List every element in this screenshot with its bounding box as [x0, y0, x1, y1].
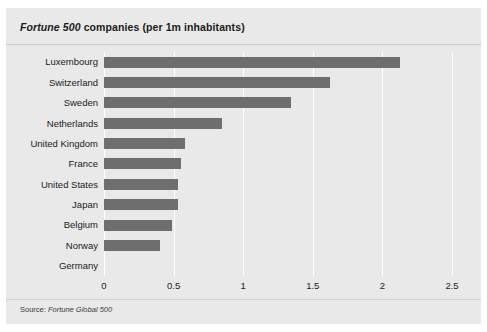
bar-row: United States — [104, 174, 452, 194]
bar — [104, 240, 160, 251]
bar-row: France — [104, 154, 452, 174]
category-label: Sweden — [64, 98, 98, 108]
bar — [104, 138, 185, 149]
bar — [104, 220, 172, 231]
category-label: Japan — [72, 200, 98, 210]
category-label: Norway — [66, 241, 98, 251]
bar-row: Netherlands — [104, 113, 452, 133]
source-divider — [6, 299, 481, 300]
bar-row: Japan — [104, 195, 452, 215]
category-label: France — [68, 159, 98, 169]
bar-row: Switzerland — [104, 72, 452, 92]
source-name: Fortune Global 500 — [48, 305, 112, 314]
category-label: Luxembourg — [45, 57, 98, 67]
bar — [104, 57, 400, 68]
bar-row: Germany — [104, 256, 452, 276]
x-tick-label: 2.5 — [445, 280, 458, 291]
category-label: Switzerland — [49, 78, 98, 88]
x-tick-label: 2 — [380, 280, 385, 291]
bar — [104, 199, 178, 210]
source-note: Source: Fortune Global 500 — [20, 305, 112, 314]
bar — [104, 179, 178, 190]
category-label: United States — [41, 180, 98, 190]
x-tick-label: 1.5 — [306, 280, 319, 291]
category-label: Germany — [59, 261, 98, 271]
bar-row: Norway — [104, 235, 452, 255]
bar — [104, 158, 181, 169]
bar — [104, 97, 291, 108]
bar — [104, 77, 330, 88]
bar-row: United Kingdom — [104, 133, 452, 153]
bar — [104, 118, 222, 129]
source-prefix: Source: — [20, 305, 48, 314]
category-label: United Kingdom — [30, 139, 98, 149]
x-tick-label: 0 — [101, 280, 106, 291]
title-divider — [6, 44, 481, 45]
bar-row: Luxembourg — [104, 52, 452, 72]
category-label: Netherlands — [47, 119, 98, 129]
chart-figure: Fortune 500 companies (per 1m inhabitant… — [6, 8, 481, 324]
chart-title-emphasis: Fortune 500 — [20, 21, 81, 33]
gridline-2.5 — [452, 52, 453, 276]
category-label: Belgium — [64, 220, 98, 230]
chart-title: Fortune 500 companies (per 1m inhabitant… — [20, 21, 245, 33]
bar-row: Belgium — [104, 215, 452, 235]
x-tick-label: 1 — [241, 280, 246, 291]
bar-row: Sweden — [104, 93, 452, 113]
plot-area: 00.511.522.5LuxembourgSwitzerlandSwedenN… — [104, 52, 452, 276]
chart-title-rest: companies (per 1m inhabitants) — [81, 21, 245, 33]
x-tick-label: 0.5 — [167, 280, 180, 291]
